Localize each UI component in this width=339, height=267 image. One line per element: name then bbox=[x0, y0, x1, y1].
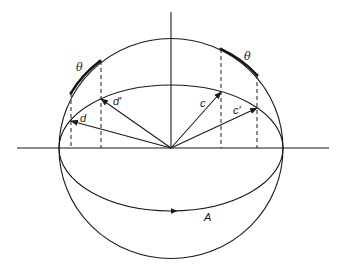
vector-label-d: d bbox=[80, 112, 87, 124]
vector-d bbox=[71, 121, 171, 148]
vector-label-c: c bbox=[200, 97, 206, 109]
vector-label-d-prime: d′ bbox=[113, 95, 122, 107]
arc-endpoint bbox=[255, 73, 258, 76]
vector-c-prime bbox=[171, 108, 257, 148]
vector-d-prime bbox=[101, 99, 171, 148]
rotation-label-A: A bbox=[203, 211, 211, 223]
theta-arc bbox=[221, 49, 257, 75]
theta-arcs: θθ bbox=[69, 47, 258, 94]
sphere-diagram: θθ dd′cc′ A bbox=[0, 0, 339, 267]
arc-endpoint bbox=[219, 47, 222, 50]
theta-label: θ bbox=[76, 61, 83, 74]
axes bbox=[17, 12, 329, 148]
vector-label-c-prime: c′ bbox=[233, 104, 242, 116]
vector-c bbox=[171, 92, 221, 148]
vectors: dd′cc′ bbox=[71, 92, 257, 148]
rotation-arrow-A: A bbox=[167, 211, 211, 223]
theta-label: θ bbox=[244, 50, 251, 63]
arc-endpoint bbox=[69, 91, 72, 94]
arc-endpoint bbox=[98, 59, 101, 62]
diagram-canvas: θθ dd′cc′ A bbox=[0, 0, 339, 267]
